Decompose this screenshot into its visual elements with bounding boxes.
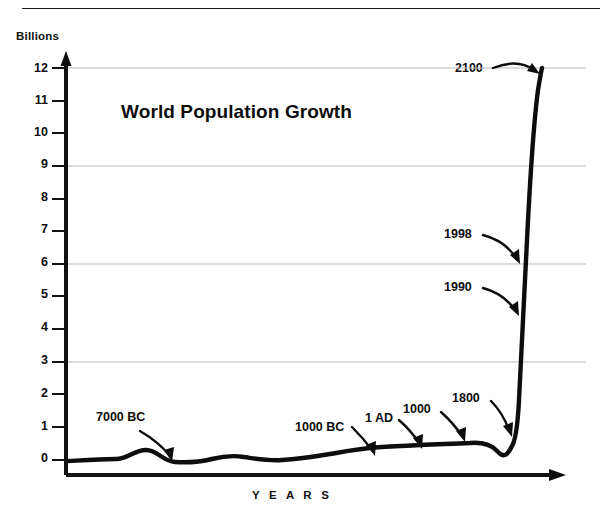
annotation-arrows xyxy=(140,63,540,462)
x-axis-arrowhead xyxy=(549,469,566,481)
arrowhead-1800 xyxy=(503,422,513,437)
y-axis-arrowhead xyxy=(61,51,72,66)
chart-figure: Billions World Population Growth 12 11 1… xyxy=(0,0,607,526)
population-curve xyxy=(69,68,542,462)
y-axis-tickmarks xyxy=(52,68,66,460)
arrow-2100 xyxy=(493,64,534,70)
chart-canvas xyxy=(0,0,607,526)
gridlines xyxy=(66,68,586,362)
x-axis xyxy=(66,469,566,481)
